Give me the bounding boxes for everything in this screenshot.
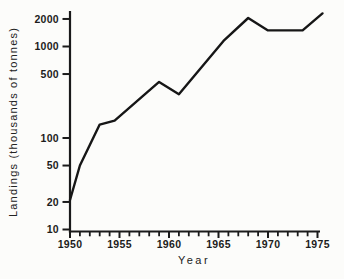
landings-line-chart-figure: 2000100050010050201019501955196019651970… — [0, 0, 344, 279]
y-tick-label: 2000 — [34, 13, 59, 25]
y-tick-label: 50 — [47, 159, 59, 171]
y-axis-title: Landings (thousands of tonnes) — [7, 14, 21, 230]
x-tick-label: 1960 — [157, 238, 182, 250]
x-tick-label: 1965 — [206, 238, 231, 250]
y-tick-label: 100 — [41, 132, 59, 144]
x-tick-label: 1975 — [305, 238, 330, 250]
x-axis-title: Year — [178, 254, 210, 266]
data-line-landings — [70, 13, 323, 200]
x-tick-label: 1970 — [256, 238, 281, 250]
y-tick-label: 20 — [47, 196, 59, 208]
y-tick-label: 10 — [47, 223, 59, 235]
y-tick-label: 1000 — [34, 40, 59, 52]
chart-canvas: 2000100050010050201019501955196019651970… — [0, 0, 344, 279]
x-tick-label: 1950 — [58, 238, 83, 250]
x-tick-label: 1955 — [107, 238, 132, 250]
y-tick-label: 500 — [41, 68, 59, 80]
